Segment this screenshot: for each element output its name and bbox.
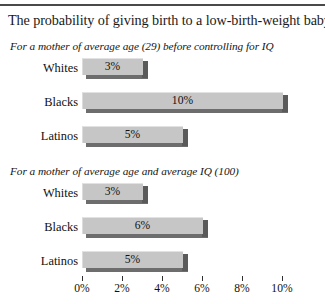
category-label-whites: Whites [0, 61, 78, 76]
bar-value-label: 3% [82, 183, 143, 200]
bar-bottom-shadow [86, 109, 288, 113]
x-axis: 0%2%4%6%8%10% [0, 276, 325, 302]
bar-blacks: 10% [82, 92, 288, 114]
bar-row: Latinos 5% [0, 124, 325, 158]
bar-bottom-shadow [86, 200, 148, 204]
axis-tick-mark [202, 276, 203, 281]
bar-row: Whites 3% [0, 56, 325, 90]
bar-whites: 3% [82, 58, 148, 80]
category-label-blacks: Blacks [0, 95, 78, 110]
bar-row: Whites 3% [0, 181, 325, 215]
bar-value-label: 5% [82, 251, 183, 268]
bar-latinos: 5% [82, 251, 188, 273]
chart-title: The probability of giving birth to a low… [8, 12, 320, 29]
axis-tick-mark [282, 276, 283, 281]
bar-bottom-shadow [86, 75, 148, 79]
axis-tick-mark [242, 276, 243, 281]
bar-value-label: 5% [82, 126, 183, 143]
bar-value-label: 10% [82, 92, 283, 109]
bar-whites: 3% [82, 183, 148, 205]
panel-bar-rows: Whites 3% Blacks 10% Latinos [0, 56, 325, 158]
axis-tick-mark [162, 276, 163, 281]
axis-tick-mark [122, 276, 123, 281]
axis-tick-label: 8% [220, 282, 264, 296]
panel-bar-rows: Whites 3% Blacks 6% Latinos [0, 181, 325, 283]
axis-tick-label: 4% [140, 282, 184, 296]
panel-subtitle: For a mother of average age (29) before … [10, 40, 274, 53]
axis-tick-label: 6% [180, 282, 224, 296]
bar-bottom-shadow [86, 268, 188, 272]
axis-tick-label: 10% [260, 282, 304, 296]
bar-blacks: 6% [82, 217, 208, 239]
category-label-latinos: Latinos [0, 129, 78, 144]
bar-row: Blacks 6% [0, 215, 325, 249]
bar-row: Blacks 10% [0, 90, 325, 124]
bar-value-label: 3% [82, 58, 143, 75]
axis-tick-label: 0% [60, 282, 104, 296]
category-label-latinos: Latinos [0, 254, 78, 269]
axis-tick-mark [82, 276, 83, 281]
category-label-blacks: Blacks [0, 220, 78, 235]
category-label-whites: Whites [0, 186, 78, 201]
bar-value-label: 6% [82, 217, 203, 234]
top-rule-divider [0, 4, 325, 6]
chart-figure: The probability of giving birth to a low… [0, 0, 325, 304]
panel-subtitle: For a mother of average age and average … [10, 165, 239, 178]
bar-bottom-shadow [86, 234, 208, 238]
bar-bottom-shadow [86, 143, 188, 147]
axis-tick-label: 2% [100, 282, 144, 296]
bar-latinos: 5% [82, 126, 188, 148]
